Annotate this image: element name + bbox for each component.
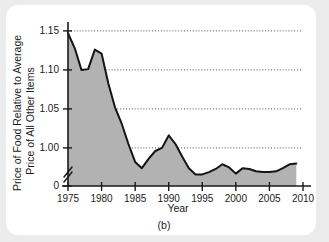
x-axis-tick-label: 2005 (258, 193, 281, 204)
y-axis-tick-label: 1.15 (40, 25, 60, 36)
y-axis-title-line1: Price of Food Relative to Average (11, 35, 23, 191)
y-axis-tick-labels: 01.001.051.101.15 (40, 25, 60, 191)
x-axis-tick-label: 1985 (124, 193, 147, 204)
figure-caption: (b) (158, 219, 171, 231)
figure-card: 01.001.051.101.15 1975198019851990199520… (6, 5, 316, 235)
x-axis-tick-label: 1995 (191, 193, 214, 204)
x-axis-tick-label: 2000 (225, 193, 248, 204)
food-price-area-chart: 01.001.051.101.15 1975198019851990199520… (6, 5, 316, 235)
chart-container: 01.001.051.101.15 1975198019851990199520… (6, 5, 316, 235)
x-axis-tick-label: 1980 (90, 193, 113, 204)
y-axis-title-line2: Price of All Other Items (24, 67, 36, 174)
y-axis-title: Price of Food Relative to Average Price … (11, 35, 36, 191)
y-axis-tick-label: 1.00 (40, 142, 60, 153)
y-axis-tick-label: 1.05 (40, 103, 60, 114)
x-axis-title: Year (167, 202, 189, 214)
y-axis-tick-label: 0 (53, 180, 59, 191)
x-axis-tick-label: 1975 (57, 193, 80, 204)
x-axis-tick-label: 2010 (292, 193, 315, 204)
y-axis-tick-label: 1.10 (40, 64, 60, 75)
